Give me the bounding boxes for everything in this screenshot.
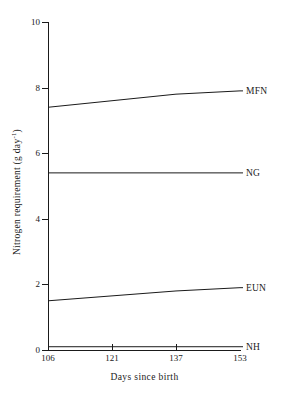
y-axis-title-suffix: ) bbox=[12, 129, 22, 132]
y-axis-title-main: Nitrogen requirement (g day bbox=[12, 139, 22, 256]
x-tick-label-121: 121 bbox=[105, 353, 119, 363]
y-tick-6 bbox=[42, 153, 48, 154]
series-label-ng: NG bbox=[246, 168, 260, 178]
y-axis-line bbox=[48, 22, 49, 351]
x-tick-label-153: 153 bbox=[233, 353, 247, 363]
y-tick-2 bbox=[42, 284, 48, 285]
series-line-mfn bbox=[48, 91, 240, 107]
series-line-eun bbox=[48, 288, 240, 301]
series-label-eun: EUN bbox=[246, 283, 266, 293]
x-tick-label-106: 106 bbox=[41, 353, 55, 363]
y-axis-title-exponent: -1 bbox=[10, 133, 17, 139]
y-tick-label-0: 0 bbox=[0, 346, 40, 355]
series-lines bbox=[0, 0, 286, 400]
y-axis-title: Nitrogen requirement (g day-1) bbox=[10, 82, 22, 302]
x-tick-121 bbox=[112, 344, 113, 350]
y-tick-4 bbox=[42, 219, 48, 220]
chart-figure: 0246810 106121137153 MFNNGEUNNH Days sin… bbox=[0, 0, 286, 400]
y-tick-10 bbox=[42, 22, 48, 23]
x-axis-line bbox=[48, 350, 241, 351]
series-label-mfn: MFN bbox=[246, 86, 267, 96]
y-tick-0 bbox=[42, 350, 48, 351]
series-label-nh: NH bbox=[246, 342, 260, 352]
y-tick-8 bbox=[42, 88, 48, 89]
x-axis-title: Days since birth bbox=[48, 372, 241, 382]
y-tick-label-10: 10 bbox=[0, 18, 40, 27]
x-tick-137 bbox=[176, 344, 177, 350]
x-tick-label-137: 137 bbox=[169, 353, 183, 363]
